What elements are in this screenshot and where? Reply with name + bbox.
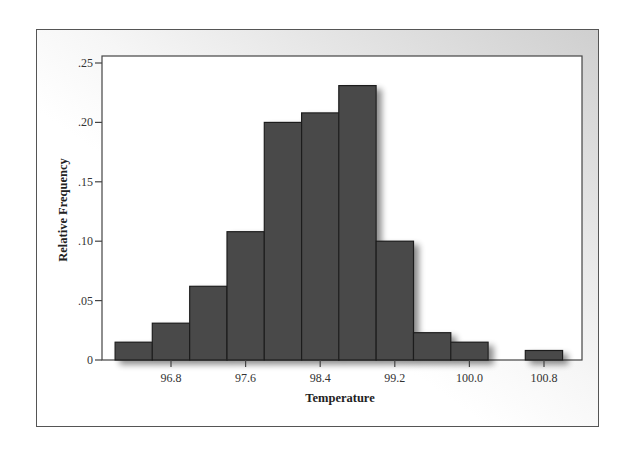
- x-tick-label: 99.2: [384, 371, 405, 385]
- y-tick-label: .20: [78, 115, 93, 129]
- histogram-bar: [525, 351, 562, 361]
- y-tick-label: .25: [78, 56, 93, 70]
- y-tick-label: 0: [87, 353, 93, 367]
- histogram-chart: 0.05.10.15.20.25 96.897.698.499.2100.010…: [0, 0, 627, 454]
- histogram-bar: [302, 113, 339, 360]
- histogram-bar: [414, 333, 451, 360]
- x-axis: 96.897.698.499.2100.0100.8: [161, 360, 558, 385]
- x-tick-label: 97.6: [235, 371, 256, 385]
- x-tick-label: 96.8: [161, 371, 182, 385]
- y-tick-label: .10: [78, 234, 93, 248]
- histogram-bar: [264, 122, 301, 360]
- histogram-bar: [451, 342, 488, 360]
- histogram-bar: [152, 323, 189, 360]
- histogram-bar: [339, 86, 376, 360]
- x-tick-label: 100.8: [531, 371, 558, 385]
- histogram-bar: [376, 241, 413, 360]
- x-tick-label: 98.4: [310, 371, 331, 385]
- x-axis-title: Temperature: [305, 391, 375, 405]
- y-axis: 0.05.10.15.20.25: [78, 56, 102, 367]
- histogram-bar: [227, 232, 264, 360]
- y-tick-label: .15: [78, 175, 93, 189]
- histogram-bar: [190, 286, 227, 360]
- y-tick-label: .05: [78, 294, 93, 308]
- x-tick-label: 100.0: [456, 371, 483, 385]
- y-axis-title: Relative Frequency: [56, 157, 70, 261]
- histogram-bar: [115, 342, 152, 360]
